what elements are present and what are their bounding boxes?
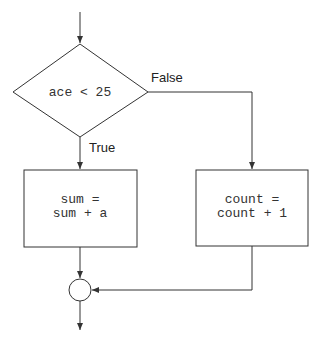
- true-process-line2: sum + a: [53, 206, 108, 221]
- false-branch-arrow: [148, 92, 252, 169]
- true-label: True: [89, 140, 115, 155]
- join-connector: [69, 279, 91, 301]
- true-process-node: sum = sum + a: [24, 170, 137, 247]
- false-to-join-arrow: [92, 246, 252, 290]
- false-process-node: count = count + 1: [196, 170, 308, 246]
- true-process-line1: sum =: [60, 192, 99, 207]
- decision-node: ace < 25: [13, 44, 148, 137]
- false-label: False: [151, 70, 183, 85]
- false-process-line2: count + 1: [217, 206, 287, 221]
- flowchart: ace < 25 False True sum = sum + a count …: [0, 0, 320, 352]
- decision-condition: ace < 25: [49, 85, 111, 100]
- false-process-line1: count =: [225, 192, 280, 207]
